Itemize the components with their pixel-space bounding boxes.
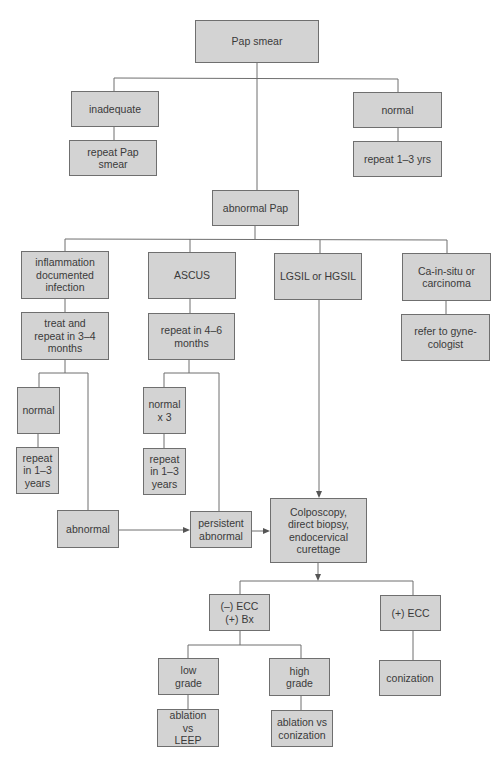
node-ascus: ASCUS [148, 252, 236, 299]
node-lgsil-hgsil: LGSIL or HGSIL [274, 253, 362, 300]
flowchart: Pap smear inadequate repeat Pap smear no… [0, 0, 502, 766]
node-inadequate: inadequate [71, 91, 159, 127]
node-normal: normal [353, 92, 442, 128]
node-normal-x3: normal x 3 [143, 387, 186, 434]
node-colposcopy: Colposcopy, direct biopsy, endocervical … [270, 498, 367, 563]
node-conization: conization [379, 660, 441, 696]
node-treat-repeat: treat and repeat in 3–4 months [21, 312, 109, 360]
node-high-grade: high grade [269, 658, 330, 696]
node-pap-smear: Pap smear [195, 20, 319, 63]
node-neg-ecc-pos-bx: (–) ECC (+) Bx [209, 594, 270, 631]
node-repeat-4-6-months: repeat in 4–6 months [148, 313, 235, 360]
node-repeat-1-3-yrs: repeat 1–3 yrs [353, 141, 442, 177]
node-repeat-pap-smear: repeat Pap smear [69, 140, 157, 176]
node-abnormal-pap: abnormal Pap [212, 190, 299, 226]
node-repeat-years-ascus: repeat in 1–3 years [143, 448, 186, 495]
node-refer-gynecologist: refer to gyne- cologist [401, 314, 490, 361]
node-abnormal: abnormal [57, 510, 119, 548]
node-inflammation: inflammation documented infection [21, 251, 109, 299]
node-repeat-years-inflammation: repeat in 1–3 years [16, 447, 59, 494]
node-ablation-vs-conization: ablation vs conization [271, 710, 333, 747]
node-low-grade: low grade [158, 658, 219, 695]
node-persistent-abnormal: persistent abnormal [190, 511, 252, 548]
node-ablation-vs-leep: ablation vs LEEP [157, 709, 219, 747]
node-ca-in-situ: Ca-in-situ or carcinoma [402, 253, 491, 301]
node-normal-inflammation: normal [17, 387, 60, 434]
node-pos-ecc: (+) ECC [380, 595, 441, 631]
